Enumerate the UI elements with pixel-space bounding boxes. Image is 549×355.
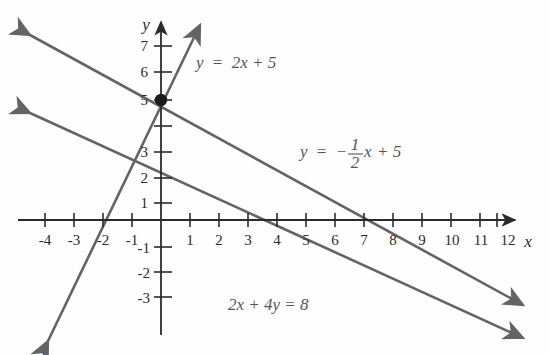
x-tick-label: -1	[126, 232, 139, 248]
x-tick-label: 7	[360, 232, 368, 248]
x-tick-label: -4	[39, 232, 52, 248]
x-tick-label: 3	[244, 232, 252, 248]
y-tick-label: -1	[138, 240, 151, 256]
y-tick-label: 7	[141, 38, 149, 54]
eq1-lhs: y	[194, 53, 204, 72]
y-tick-label: 3	[141, 144, 149, 160]
y-tick-label: 5	[141, 92, 149, 108]
x-tick-label: 2	[215, 232, 223, 248]
x-tick-label: -2	[97, 232, 110, 248]
eq2-fraction-denominator: 2	[351, 153, 360, 172]
y-tick-label: 1	[141, 195, 149, 211]
eq2-equals: =	[317, 142, 327, 161]
graph-canvas: -4 -3 -2 -1 1 2 3 4 5 6 7 8 9 10 11 12 7…	[0, 0, 549, 355]
x-tick-label: 9	[418, 232, 426, 248]
x-tick-label: 8	[389, 232, 397, 248]
x-tick-label: 10	[445, 232, 460, 248]
eq2-lhs-group: y = −	[298, 142, 346, 161]
x-tick-label: 5	[302, 232, 310, 248]
eq2-variable: x	[363, 142, 372, 161]
x-tick-label: 11	[474, 232, 488, 248]
line-y-equals-neg-half-x-plus-5	[30, 35, 523, 305]
equation-line1-text: y = 2x + 5	[194, 53, 276, 72]
x-tick-label: 12	[501, 232, 516, 248]
y-tick-labels: 7 6 5 3 2 1 -1 -2 -3	[138, 38, 151, 306]
equation-label-line1: y = 2x + 5	[194, 53, 276, 72]
x-tick-label: 4	[273, 232, 281, 248]
x-tick-label: 6	[331, 232, 339, 248]
eq2-fraction-numerator: 1	[351, 135, 360, 154]
line-y-equals-2x-plus-5	[48, 25, 200, 341]
equation-line3-text: 2x + 4y = 8	[228, 295, 309, 314]
x-tick-labels: -4 -3 -2 -1 1 2 3 4 5 6 7 8 9 10 11 12	[39, 232, 516, 248]
y-tick-label: 2	[141, 170, 149, 186]
y-axis-label: y	[140, 15, 150, 34]
intersection-point-marker	[155, 94, 167, 106]
equation-label-line3: 2x + 4y = 8	[228, 295, 309, 314]
y-tick-label: -3	[138, 290, 151, 306]
x-axis-label: x	[523, 232, 532, 251]
x-tick-label: 1	[186, 232, 194, 248]
equation-label-line2: y = − 1 2 x + 5	[298, 135, 401, 172]
y-tick-label: -2	[138, 265, 151, 281]
coordinate-plane: -4 -3 -2 -1 1 2 3 4 5 6 7 8 9 10 11 12 7…	[0, 0, 549, 355]
eq2-minus: −	[337, 142, 347, 161]
y-tick-label: 6	[141, 64, 149, 80]
eq2-lhs: y	[298, 142, 308, 161]
eq1-equals: =	[213, 53, 223, 72]
eq2-addend: + 5	[377, 142, 401, 161]
x-tick-label: -3	[68, 232, 81, 248]
eq1-rhs: 2x + 5	[232, 53, 277, 72]
